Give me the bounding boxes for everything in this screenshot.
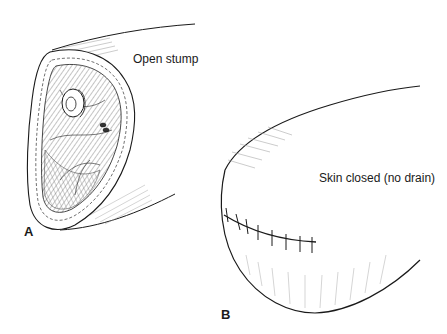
panel-b-letter: B [221, 307, 230, 322]
illustration [0, 0, 447, 334]
panel-a-letter: A [24, 224, 33, 239]
panel-b-drawing [221, 86, 420, 313]
figure-canvas: Open stump A Skin closed (no drain) B [0, 0, 447, 334]
panel-a-caption: Open stump [133, 52, 198, 66]
panel-b-caption: Skin closed (no drain) [319, 171, 435, 185]
